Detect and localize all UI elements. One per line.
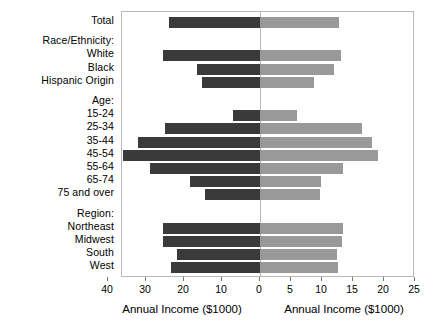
left-40-tick-label: 40 (101, 283, 113, 295)
row-label-65-74: 65-74 (87, 174, 114, 185)
left-axis-title: Annual Income ($1000) (122, 302, 242, 316)
bar-row (122, 64, 413, 75)
bar-left-45-54 (123, 150, 260, 161)
left-10-tick-label: 10 (215, 283, 227, 295)
row-label-35-44: 35-44 (87, 135, 114, 146)
row-label-45-54: 45-54 (87, 148, 114, 159)
bar-right-west (260, 262, 338, 273)
bar-left-west (171, 262, 260, 273)
bar-right-75-and-over (260, 189, 320, 200)
right-15-tick-label: 15 (346, 283, 358, 295)
bar-left-total (169, 17, 260, 28)
bar-right-25-34 (260, 123, 362, 134)
right-0-tick (259, 277, 260, 281)
bar-right-hispanic-origin (260, 77, 314, 88)
bar-left-south (177, 249, 260, 260)
right-20-tick-label: 20 (377, 283, 389, 295)
bar-left-35-44 (138, 137, 260, 148)
income-diverging-bar-chart: TotalRace/Ethnicity:WhiteBlackHispanic O… (0, 0, 438, 329)
row-label-west: West (90, 260, 114, 271)
right-5-tick (290, 277, 291, 281)
bar-left-25-34 (165, 123, 260, 134)
bar-row (122, 137, 413, 148)
right-axis-title: Annual Income ($1000) (284, 302, 404, 316)
row-label-south: South (86, 247, 114, 258)
bar-right-white (260, 50, 341, 61)
bar-row (122, 123, 413, 134)
plot-area (121, 11, 414, 277)
left-30-tick-label: 30 (139, 283, 151, 295)
bar-right-45-54 (260, 150, 378, 161)
row-label-black: Black (88, 62, 114, 73)
bar-right-midwest (260, 236, 342, 247)
bar-right-35-44 (260, 137, 372, 148)
right-0-tick-label: 0 (256, 283, 262, 295)
bar-left-white (163, 50, 260, 61)
bar-row (122, 236, 413, 247)
bar-row (122, 50, 413, 61)
row-label-total: Total (91, 15, 114, 26)
left-30-tick (145, 277, 146, 281)
bar-row (122, 262, 413, 273)
right-20-tick (383, 277, 384, 281)
bar-left-hispanic-origin (202, 77, 260, 88)
bar-row (122, 17, 413, 28)
bar-row (122, 150, 413, 161)
row-label-15-24: 15-24 (87, 108, 114, 119)
bar-right-northeast (260, 223, 343, 234)
bar-right-65-74 (260, 176, 321, 187)
bar-left-midwest (163, 236, 260, 247)
bar-row (122, 77, 413, 88)
axis-tick-marks (121, 277, 414, 282)
category-label-column: TotalRace/Ethnicity:WhiteBlackHispanic O… (0, 0, 118, 329)
bar-row (122, 249, 413, 260)
group-heading-region: Region: (77, 208, 114, 219)
bar-left-65-74 (190, 176, 260, 187)
bar-right-total (260, 17, 339, 28)
bar-left-75-and-over (205, 189, 260, 200)
group-heading-age: Age: (92, 95, 114, 106)
bar-row (122, 223, 413, 234)
row-label-white: White (87, 48, 114, 59)
bar-left-55-64 (150, 163, 260, 174)
right-25-tick (414, 277, 415, 281)
bar-row (122, 176, 413, 187)
row-label-hispanic-origin: Hispanic Origin (41, 75, 114, 86)
bar-right-black (260, 64, 334, 75)
bar-row (122, 110, 413, 121)
bar-right-south (260, 249, 337, 260)
bar-row (122, 163, 413, 174)
bar-row (122, 189, 413, 200)
bar-right-15-24 (260, 110, 297, 121)
right-15-tick (352, 277, 353, 281)
left-20-tick (183, 277, 184, 281)
bar-left-15-24 (233, 110, 260, 121)
right-10-tick-label: 10 (315, 283, 327, 295)
right-10-tick (321, 277, 322, 281)
left-40-tick (107, 277, 108, 281)
bar-left-northeast (163, 223, 260, 234)
row-label-25-34: 25-34 (87, 121, 114, 132)
left-10-tick (221, 277, 222, 281)
bar-left-black (197, 64, 260, 75)
right-25-tick-label: 25 (408, 283, 420, 295)
row-label-55-64: 55-64 (87, 161, 114, 172)
group-heading-raceethnicity: Race/Ethnicity: (42, 35, 114, 46)
bar-right-55-64 (260, 163, 343, 174)
right-5-tick-label: 5 (287, 283, 293, 295)
row-label-northeast: Northeast (68, 221, 114, 232)
row-label-midwest: Midwest (75, 234, 114, 245)
row-label-75-and-over: 75 and over (57, 187, 114, 198)
left-20-tick-label: 20 (177, 283, 189, 295)
